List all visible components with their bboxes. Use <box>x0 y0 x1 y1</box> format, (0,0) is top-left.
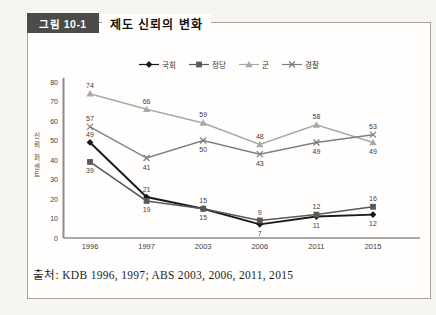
data-label: 50 <box>199 146 207 153</box>
data-label: 15 <box>199 197 207 204</box>
trust-line-chart: 01020304050607080신뢰퍼센트199619972003200620… <box>27 75 431 255</box>
data-label: 59 <box>199 111 207 118</box>
y-tick-label: 30 <box>50 176 58 183</box>
y-tick-label: 80 <box>50 79 58 86</box>
x-tick-label: 2003 <box>195 242 212 251</box>
y-axis-title-char: 트 <box>34 171 40 178</box>
data-label: 41 <box>143 164 151 171</box>
series-line <box>90 162 373 221</box>
figure-number-tag: 그림 10-1 <box>27 13 99 33</box>
x-tick-label: 2006 <box>251 242 268 251</box>
data-label: 11 <box>313 222 320 229</box>
legend-label: 경찰 <box>305 59 319 70</box>
y-axis-title-char: 퍼 <box>34 153 40 162</box>
square-marker-icon <box>87 159 93 165</box>
series-square: 39191591216 <box>86 159 377 223</box>
x-tick-label: 1996 <box>82 242 99 251</box>
y-axis-title-char: 센 <box>34 162 40 170</box>
square-marker-icon <box>200 206 206 212</box>
square-marker-icon <box>196 62 202 68</box>
x-tick-label: 1997 <box>138 242 155 251</box>
legend-marker-triangle <box>239 60 259 69</box>
triangle-marker-icon <box>86 90 93 96</box>
y-tick-label: 0 <box>54 235 58 242</box>
y-tick-label: 50 <box>50 137 58 144</box>
data-label: 48 <box>256 133 264 140</box>
data-label: 53 <box>369 123 377 130</box>
data-label: 49 <box>313 148 321 155</box>
data-label: 7 <box>258 230 262 237</box>
y-tick-label: 10 <box>50 215 58 222</box>
legend-item: 경찰 <box>282 59 319 70</box>
data-label: 66 <box>143 98 151 105</box>
legend-item: 정당 <box>189 59 226 70</box>
legend-marker-diamond <box>139 60 159 69</box>
data-label: 58 <box>313 113 321 120</box>
square-marker-icon <box>314 212 320 218</box>
data-label: 74 <box>86 82 94 89</box>
data-label: 19 <box>143 206 151 213</box>
source-citation: 출처: KDB 1996, 1997; ABS 2003, 2006, 2011… <box>33 266 293 282</box>
diamond-marker-icon <box>370 211 377 218</box>
data-label: 16 <box>369 195 377 202</box>
legend-label: 국회 <box>162 59 176 70</box>
y-tick-label: 70 <box>50 98 58 105</box>
data-label: 9 <box>258 209 262 216</box>
legend-item: 국회 <box>139 59 176 70</box>
figure-title: 제도 신뢰의 변화 <box>102 14 211 32</box>
y-tick-label: 20 <box>50 196 58 203</box>
square-marker-icon <box>257 218 263 224</box>
legend-label: 정당 <box>212 59 226 70</box>
x-tick-label: 2015 <box>365 242 382 251</box>
series-x: 574150434953 <box>86 115 377 170</box>
diamond-marker-icon <box>146 61 153 68</box>
data-label: 43 <box>256 160 264 167</box>
x-tick-label: 2011 <box>308 242 324 251</box>
data-label: 15 <box>199 214 207 221</box>
data-label: 57 <box>86 115 94 122</box>
chart-legend: 국회정당군경찰 <box>27 59 431 70</box>
series-line <box>90 94 373 145</box>
legend-label: 군 <box>262 59 269 70</box>
data-label: 12 <box>313 203 321 210</box>
legend-marker-square <box>189 60 209 69</box>
data-label: 49 <box>369 148 377 155</box>
series-line <box>90 127 373 158</box>
legend-marker-x <box>282 60 302 69</box>
y-axis-title-char: 신 <box>34 131 40 139</box>
x-marker-icon <box>87 124 93 130</box>
series-triangle: 746659485849 <box>86 82 377 155</box>
square-marker-icon <box>370 204 376 210</box>
triangle-marker-icon <box>313 121 320 127</box>
y-tick-label: 40 <box>50 157 58 164</box>
data-label: 39 <box>86 167 94 174</box>
y-axis-title-char: 뢰 <box>34 140 40 149</box>
data-label: 12 <box>369 220 377 227</box>
legend-item: 군 <box>239 59 269 70</box>
data-label: 49 <box>86 131 94 138</box>
data-label: 21 <box>143 186 151 193</box>
square-marker-icon <box>144 198 150 204</box>
y-tick-label: 60 <box>50 118 58 125</box>
